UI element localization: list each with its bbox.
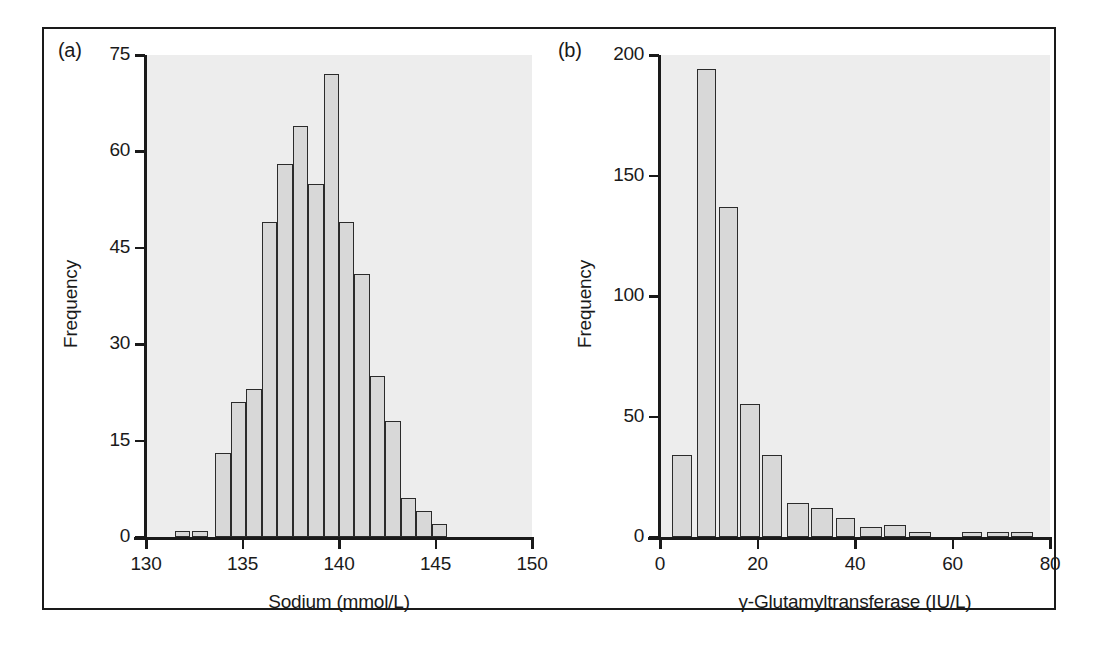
x-tick-label: 135: [203, 553, 283, 575]
histogram-bar: [719, 207, 739, 537]
histogram-bar: [762, 455, 782, 537]
x-tick-label: 130: [106, 553, 186, 575]
x-tick-label: 20: [718, 553, 798, 575]
panel-b-ggt-histogram: (b) Frequency γ-Glutamyltransferase (IU/…: [544, 29, 1058, 612]
y-tick-label: 0: [74, 525, 130, 547]
panel-a-x-axis-line: [134, 537, 534, 540]
x-tick-mark: [659, 539, 662, 549]
panel-b-label: (b): [558, 39, 582, 62]
histogram-bar: [215, 453, 230, 537]
y-tick-label: 150: [588, 164, 644, 186]
y-tick-mark: [649, 536, 659, 539]
histogram-bar: [192, 531, 207, 537]
histogram-bar: [672, 455, 692, 537]
x-tick-label: 60: [913, 553, 993, 575]
histogram-bar: [370, 376, 385, 537]
x-tick-label: 140: [299, 553, 379, 575]
y-tick-mark: [135, 150, 145, 153]
histogram-bar: [277, 164, 292, 537]
histogram-bar: [884, 525, 906, 537]
x-tick-mark: [338, 539, 341, 549]
y-tick-mark: [649, 54, 659, 57]
histogram-bar: [962, 532, 982, 537]
y-tick-mark: [649, 175, 659, 178]
histogram-bar: [293, 126, 308, 537]
panel-b-x-axis-title: γ-Glutamyltransferase (IU/L): [560, 591, 1096, 613]
figure-border-frame: (a) Frequency Sodium (mmol/L) 0153045607…: [42, 27, 1056, 610]
x-tick-mark: [435, 539, 438, 549]
y-tick-mark: [135, 54, 145, 57]
histogram-bar: [401, 498, 416, 537]
histogram-bar: [324, 74, 339, 537]
y-tick-mark: [135, 247, 145, 250]
histogram-bar: [339, 222, 354, 537]
x-tick-label: 145: [396, 553, 476, 575]
x-tick-mark: [242, 539, 245, 549]
y-tick-label: 100: [588, 284, 644, 306]
y-tick-mark: [135, 440, 145, 443]
x-tick-mark: [854, 539, 857, 549]
y-tick-label: 75: [74, 43, 130, 65]
y-tick-mark: [135, 343, 145, 346]
panel-b-x-axis-line: [648, 537, 1052, 540]
histogram-bar: [231, 402, 246, 537]
figure-root: (a) Frequency Sodium (mmol/L) 0153045607…: [0, 0, 1096, 646]
histogram-bar: [740, 404, 760, 537]
y-tick-label: 0: [588, 525, 644, 547]
panel-a-sodium-histogram: (a) Frequency Sodium (mmol/L) 0153045607…: [44, 29, 544, 612]
x-tick-mark: [531, 539, 534, 549]
y-tick-mark: [135, 536, 145, 539]
histogram-bar: [836, 518, 856, 537]
histogram-bar: [1011, 532, 1033, 537]
y-tick-label: 200: [588, 43, 644, 65]
y-tick-label: 50: [588, 405, 644, 427]
x-tick-mark: [757, 539, 760, 549]
histogram-bar: [175, 531, 190, 537]
histogram-bar: [354, 274, 369, 537]
x-tick-label: 40: [815, 553, 895, 575]
histogram-bar: [432, 524, 447, 537]
histogram-bar: [416, 511, 431, 537]
x-tick-label: 80: [1010, 553, 1090, 575]
y-tick-label: 45: [74, 236, 130, 258]
histogram-bar: [262, 222, 277, 537]
histogram-bar: [909, 532, 931, 537]
x-tick-mark: [145, 539, 148, 549]
y-tick-label: 30: [74, 332, 130, 354]
y-tick-label: 15: [74, 429, 130, 451]
histogram-bar: [811, 508, 833, 537]
y-tick-label: 60: [74, 139, 130, 161]
y-tick-mark: [649, 295, 659, 298]
histogram-bar: [246, 389, 261, 537]
histogram-bar: [385, 421, 400, 537]
x-tick-label: 0: [620, 553, 700, 575]
histogram-bar: [697, 69, 717, 537]
x-tick-mark: [952, 539, 955, 549]
histogram-bar: [787, 503, 809, 537]
y-tick-mark: [649, 416, 659, 419]
x-tick-mark: [1049, 539, 1052, 549]
histogram-bar: [308, 184, 323, 537]
panel-a-y-axis-line: [144, 55, 147, 537]
histogram-bar: [987, 532, 1009, 537]
histogram-bar: [860, 527, 882, 537]
